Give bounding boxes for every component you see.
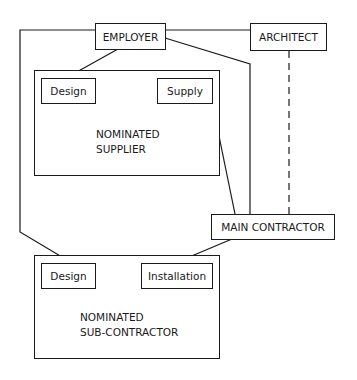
subcontractor-title-line2: SUB-CONTRACTOR — [80, 325, 178, 340]
architect-node: ARCHITECT — [250, 23, 327, 51]
subcontractor-design-label: Design — [42, 264, 95, 288]
main-contractor-label: MAIN CONTRACTOR — [212, 215, 334, 239]
supplier-design-label: Design — [42, 79, 95, 103]
supplier-supply-node: Supply — [157, 78, 213, 104]
main-contractor-node: MAIN CONTRACTOR — [211, 214, 335, 240]
subcontractor-design-node: Design — [41, 263, 96, 289]
subcontractor-installation-label: Installation — [142, 264, 212, 288]
supplier-title-line1: NOMINATED — [96, 127, 160, 142]
subcontractor-installation-node: Installation — [141, 263, 213, 289]
architect-label: ARCHITECT — [251, 24, 326, 50]
supplier-supply-label: Supply — [158, 79, 212, 103]
subcontractor-title-line1: NOMINATED — [80, 310, 144, 325]
supplier-design-node: Design — [41, 78, 96, 104]
employer-node: EMPLOYER — [95, 23, 166, 50]
supplier-title-line2: SUPPLIER — [96, 142, 146, 157]
employer-label: EMPLOYER — [96, 24, 165, 49]
nominated-subcontractor-node: Design Installation NOMINATED SUB-CONTRA… — [34, 255, 220, 359]
nominated-supplier-node: Design Supply NOMINATED SUPPLIER — [34, 70, 220, 176]
